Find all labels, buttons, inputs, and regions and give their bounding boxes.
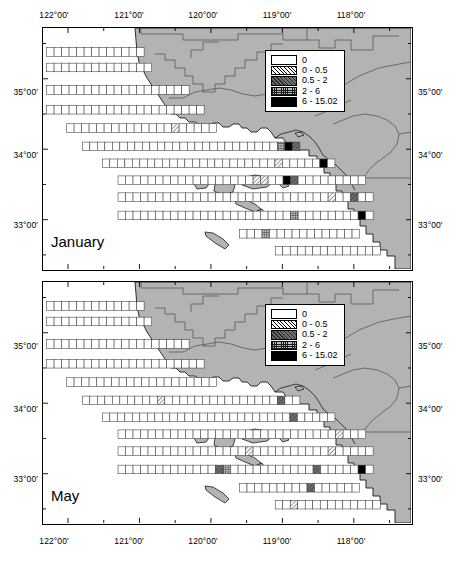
survey-cell xyxy=(313,447,321,456)
survey-cell xyxy=(292,396,300,405)
survey-cell xyxy=(216,211,224,220)
survey-cell xyxy=(182,105,190,114)
survey-cell xyxy=(202,124,210,133)
survey-cell xyxy=(112,142,120,151)
legend-row: 0.5 - 2 xyxy=(271,330,338,340)
survey-cell xyxy=(277,483,285,492)
survey-row xyxy=(47,105,205,114)
survey-cell xyxy=(126,465,134,474)
survey-cell xyxy=(313,246,321,255)
survey-cell xyxy=(285,396,293,405)
survey-cell xyxy=(336,193,344,202)
survey-cell xyxy=(152,105,160,114)
survey-cell xyxy=(307,483,315,492)
survey-cell xyxy=(231,211,239,220)
survey-cell xyxy=(178,465,186,474)
survey-cell xyxy=(54,302,62,311)
survey-cell xyxy=(328,246,336,255)
survey-cell xyxy=(129,48,137,57)
survey-row xyxy=(118,447,373,456)
x-axis-label-top-1: 121°00' xyxy=(114,10,143,20)
survey-cell xyxy=(62,105,70,114)
survey-cell xyxy=(231,176,239,185)
survey-cell xyxy=(283,211,291,220)
legend-swatch-4 xyxy=(271,351,297,361)
survey-cell xyxy=(351,447,359,456)
survey-cell xyxy=(172,396,180,405)
survey-cell xyxy=(217,142,225,151)
y-axis-label-right-j2: 33°00' xyxy=(418,220,443,230)
survey-cell xyxy=(122,317,130,326)
survey-cell xyxy=(185,413,193,422)
survey-cell xyxy=(159,105,167,114)
survey-cell xyxy=(122,63,130,72)
survey-cell xyxy=(305,413,313,422)
survey-row xyxy=(47,63,152,72)
survey-cell xyxy=(202,396,210,405)
survey-cell xyxy=(133,465,141,474)
survey-cell xyxy=(208,193,216,202)
survey-cell xyxy=(90,142,98,151)
survey-cell xyxy=(140,159,148,168)
survey-cell xyxy=(350,500,358,509)
survey-cell xyxy=(321,447,329,456)
survey-cell xyxy=(171,447,179,456)
survey-cell xyxy=(292,229,300,238)
panel-title-january: January xyxy=(51,233,104,250)
survey-cell xyxy=(182,86,190,95)
survey-cell xyxy=(195,142,203,151)
survey-cell xyxy=(84,48,92,57)
survey-cell xyxy=(114,302,122,311)
survey-cell xyxy=(327,159,335,168)
survey-cell xyxy=(230,413,238,422)
survey-cell xyxy=(187,142,195,151)
survey-cell xyxy=(238,447,246,456)
legend-label-1: 0 - 0.5 xyxy=(302,66,328,75)
survey-cell xyxy=(252,413,260,422)
survey-cell xyxy=(232,142,240,151)
survey-cell xyxy=(352,483,360,492)
survey-cell xyxy=(373,246,381,255)
survey-cell xyxy=(255,396,263,405)
survey-cell xyxy=(47,86,55,95)
survey-cell xyxy=(163,211,171,220)
legend-swatch-0 xyxy=(271,309,297,319)
survey-cell xyxy=(268,193,276,202)
survey-cell xyxy=(99,359,107,368)
survey-cell xyxy=(216,465,224,474)
survey-cell xyxy=(336,211,344,220)
survey-cell xyxy=(122,340,130,349)
survey-cell xyxy=(320,413,328,422)
survey-cell xyxy=(179,378,187,387)
survey-cell xyxy=(186,211,194,220)
legend-swatch-3 xyxy=(271,87,297,97)
survey-cell xyxy=(358,500,366,509)
survey-cell xyxy=(193,465,201,474)
survey-cell xyxy=(47,63,55,72)
survey-cell xyxy=(152,359,160,368)
survey-cell xyxy=(261,176,269,185)
survey-cell xyxy=(104,378,112,387)
survey-cell xyxy=(351,211,359,220)
survey-cell xyxy=(262,396,270,405)
survey-cell xyxy=(167,340,175,349)
survey-cell xyxy=(186,193,194,202)
survey-cell xyxy=(328,465,336,474)
survey-cell xyxy=(208,211,216,220)
survey-cell xyxy=(201,447,209,456)
survey-cell xyxy=(99,86,107,95)
survey-cell xyxy=(107,302,115,311)
survey-cell xyxy=(351,193,359,202)
survey-cell xyxy=(105,142,113,151)
survey-cell xyxy=(117,413,125,422)
survey-cell xyxy=(283,447,291,456)
survey-cell xyxy=(321,430,329,439)
survey-cell xyxy=(276,176,284,185)
survey-cell xyxy=(194,124,202,133)
survey-cell xyxy=(114,48,122,57)
survey-cell xyxy=(147,413,155,422)
survey-cell xyxy=(135,142,143,151)
survey-cell xyxy=(292,142,300,151)
survey-cell xyxy=(162,159,170,168)
survey-cell xyxy=(54,317,62,326)
